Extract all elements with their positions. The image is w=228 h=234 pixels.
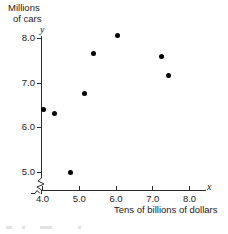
plot-data-area [0,0,228,234]
scatter-plot-figure: Millions of cars y x 5.06.07.08.0 4.05.0… [0,0,228,234]
data-point [115,33,120,38]
cropped-text-artifact [6,226,116,229]
data-point [41,107,46,112]
data-point [52,111,57,116]
data-point [159,54,164,59]
x-axis-label: Tens of billions of dollars [114,204,218,215]
data-point [82,91,87,96]
data-point [166,73,171,78]
data-point [91,51,96,56]
data-point [68,170,73,175]
